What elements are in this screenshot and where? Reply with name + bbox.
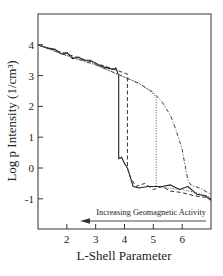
series-line-dashed	[38, 45, 211, 199]
y-tick-label: -1	[25, 193, 34, 205]
line-chart: 23456 43210-1 Increasing Geomagnetic Act…	[0, 0, 223, 276]
series-line-dotted	[38, 45, 211, 198]
y-tick-label: 1	[29, 131, 35, 143]
x-axis-ticks: 23456	[64, 224, 185, 245]
y-axis-ticks: 43210-1	[25, 39, 43, 205]
plot-frame	[38, 14, 211, 229]
series-line-dash-dot	[38, 45, 211, 194]
y-tick-label: 3	[29, 70, 35, 82]
y-tick-label: 2	[29, 100, 35, 112]
series-line-solid	[38, 45, 211, 201]
x-tick-label: 5	[151, 233, 157, 245]
annotation-arrow	[80, 218, 206, 223]
x-tick-label: 6	[179, 233, 185, 245]
y-tick-label: 4	[29, 39, 35, 51]
x-axis-label: L-Shell Parameter	[77, 248, 173, 263]
annotation-text: Increasing Geomagnetic Activity	[96, 208, 207, 217]
series-layer	[38, 45, 211, 201]
y-axis-label: Log p Intensity (1/cm³)	[4, 60, 19, 181]
y-tick-label: 0	[29, 162, 35, 174]
x-tick-label: 2	[64, 233, 70, 245]
x-tick-label: 3	[93, 233, 99, 245]
x-tick-label: 4	[122, 233, 128, 245]
